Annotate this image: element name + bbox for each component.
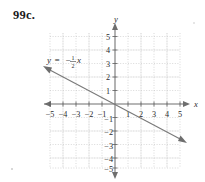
equation-lhs: y	[46, 55, 51, 65]
y-tick-label: −1	[104, 115, 113, 124]
x-tick-label: −2	[85, 110, 94, 119]
line-right-arrow	[178, 136, 187, 144]
equation-denominator: 2	[72, 63, 75, 69]
y-tick-label: 1	[106, 87, 110, 96]
x-tick-label: −4	[59, 110, 68, 119]
line-left-arrow	[43, 66, 52, 74]
y-tick-label: 5	[106, 33, 110, 42]
graph-figure: 99c.	[0, 0, 205, 182]
y-tick-label: −2	[104, 128, 113, 137]
equation-variable: x	[76, 55, 81, 65]
x-tick-label: 4	[165, 110, 169, 119]
x-tick-label: −3	[72, 110, 81, 119]
y-tick-label: 3	[106, 60, 110, 69]
y-tick-label: 2	[106, 73, 110, 82]
scan-speck	[193, 22, 195, 24]
x-tick-label: 5	[178, 110, 182, 119]
coordinate-plane: −5 −4 −3 −2 −1 1 2 3 4 5 5 4 3 2 1 −1 −2…	[0, 0, 205, 182]
equation-sign: −	[65, 55, 71, 65]
y-tick-label: −5	[104, 165, 113, 174]
y-axis-top-arrow	[112, 23, 118, 30]
scan-speck	[11, 168, 13, 170]
x-axis-right-arrow	[183, 101, 190, 107]
x-tick-label: 3	[152, 110, 156, 119]
y-tick-label: 4	[106, 46, 110, 55]
equation-numerator: 1	[72, 55, 75, 61]
equation-equals: =	[54, 55, 60, 65]
x-axis-label: x	[193, 99, 198, 109]
x-tick-label: −5	[46, 110, 55, 119]
y-axis-label: y	[113, 14, 118, 24]
y-tick-label: −4	[104, 155, 113, 164]
y-tick-label: −3	[104, 142, 113, 151]
